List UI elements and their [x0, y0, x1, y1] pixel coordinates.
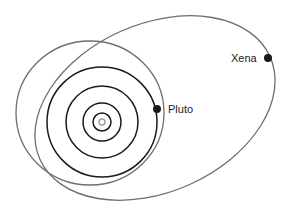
orbit-diagram: Pluto Xena	[0, 0, 286, 212]
sun-icon	[99, 119, 105, 125]
planet-orbits	[47, 67, 157, 177]
pluto-dot	[153, 105, 161, 113]
xena-label: Xena	[231, 52, 258, 64]
planet-orbit-1	[93, 113, 111, 131]
pluto-label: Pluto	[168, 103, 193, 115]
xena-orbit	[6, 0, 286, 212]
planet-orbit-4	[47, 67, 157, 177]
planet-orbit-2	[83, 103, 121, 141]
xena-dot	[264, 54, 272, 62]
planet-orbit-3	[66, 86, 138, 158]
